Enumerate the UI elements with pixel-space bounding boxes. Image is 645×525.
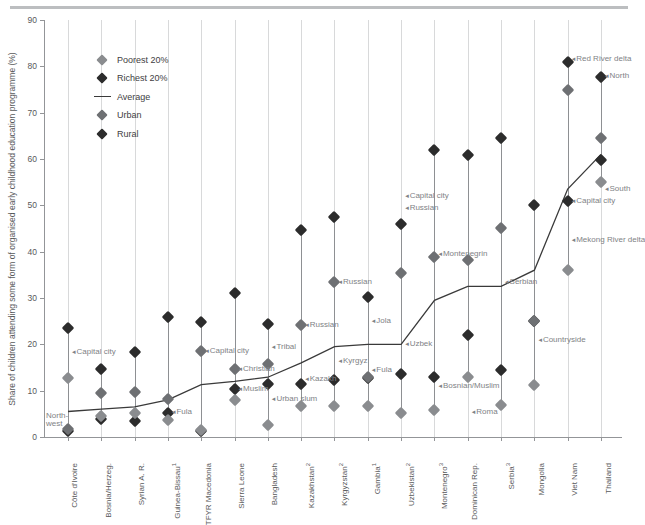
x-tick-label: Bangladesh (271, 463, 279, 505)
header-rule (10, 6, 628, 9)
x-tick-mark (268, 437, 269, 441)
x-tick-label: Dominican Rep. (471, 463, 479, 520)
x-tick-label: Montenegro3 (438, 463, 449, 509)
legend-label-rural: Rural (117, 129, 139, 139)
x-tick-label: Côte d'Ivoire (71, 463, 79, 508)
diamond-icon (92, 130, 112, 138)
annotation-label: Muslim (239, 385, 269, 393)
annotation-label: Russian (338, 278, 371, 286)
x-tick-mark (201, 437, 202, 441)
legend-item-urban: Urban (92, 108, 169, 123)
diamond-icon (92, 74, 112, 82)
x-tick-label: Gambia1 (371, 463, 382, 494)
y-axis-title: Share of children attending some form of… (6, 20, 18, 437)
annotation-label: Russian (405, 203, 438, 211)
annotation-label: North-west (46, 412, 68, 428)
annotation-label: Mekong River delta (572, 236, 645, 244)
legend-item-richest: Richest 20% (92, 71, 169, 86)
annotation-label: Montenegrin (438, 250, 487, 258)
annotation-label: North (605, 71, 629, 79)
y-tick-label: 0 (32, 433, 37, 442)
x-tick-label: TFYR Macedonia (205, 463, 213, 525)
annotation-label: Capital city (405, 192, 449, 200)
annotation-label: Countryside (538, 335, 585, 343)
annotation-label: Capital city (205, 347, 249, 355)
diamond-icon (92, 56, 112, 64)
x-tick-mark (568, 437, 569, 441)
x-tick-label: Serbia3 (505, 463, 516, 489)
annotation-label: Red River delta (572, 55, 632, 63)
y-tick-label: 60 (28, 155, 37, 164)
legend-label-average: Average (117, 92, 150, 102)
y-tick-label: 80 (28, 62, 37, 71)
legend-label-richest: Richest 20% (117, 73, 168, 83)
annotation-label: Capital city (572, 196, 616, 204)
y-tick-label: 20 (28, 340, 37, 349)
x-tick-label: Kyrgyzstan2 (338, 463, 349, 506)
annotation-label: Fula (172, 407, 192, 415)
x-tick-label: Uzbekistan2 (405, 463, 416, 506)
x-tick-label: Kazakhstan2 (305, 463, 316, 508)
annotation-label: Russian (305, 321, 338, 329)
legend-item-average: Average (92, 89, 169, 104)
annotation-label: Uzbek (405, 340, 432, 348)
x-tick-label: Thailand (605, 463, 613, 494)
x-tick-label: Mongolia (538, 463, 546, 495)
y-axis-title-text: Share of children attending some form of… (7, 52, 17, 405)
annotation-label: Fula (372, 366, 392, 374)
annotation-label: South (605, 185, 630, 193)
annotation-label: Jola (372, 317, 391, 325)
x-tick-mark (601, 437, 602, 441)
x-tick-label: Bosnia/Herzeg. (105, 463, 113, 518)
x-tick-mark (334, 437, 335, 441)
annotation-label: Tribal (272, 342, 296, 350)
x-tick-label: Syrian A. R. (138, 463, 146, 505)
y-tick-label: 70 (28, 108, 37, 117)
y-tick-label: 10 (28, 386, 37, 395)
x-tick-mark (68, 437, 69, 441)
y-tick-label: 90 (28, 16, 37, 25)
y-tick-mark (40, 437, 44, 438)
diamond-icon (92, 111, 112, 119)
y-tick-label: 50 (28, 201, 37, 210)
x-tick-mark (501, 437, 502, 441)
x-tick-label: Guinea-Bissau1 (171, 463, 182, 519)
legend-item-poorest: Poorest 20% (92, 52, 169, 67)
x-tick-mark (135, 437, 136, 441)
line-icon (92, 96, 112, 98)
annotation-label: Bosnian/Muslim (438, 382, 499, 390)
x-tick-mark (235, 437, 236, 441)
annotation-label: Christian (239, 365, 275, 373)
legend: Poorest 20% Richest 20% Average Urban Ru… (92, 52, 169, 145)
legend-label-urban: Urban (117, 110, 142, 120)
annotation-label: Urban slum (272, 394, 317, 402)
x-tick-mark (534, 437, 535, 441)
annotation-label: Kyrgyz (338, 356, 367, 364)
y-tick-label: 30 (28, 294, 37, 303)
annotation-label: Capital city (72, 348, 116, 356)
x-tick-mark (301, 437, 302, 441)
legend-label-poorest: Poorest 20% (117, 55, 169, 65)
x-tick-label: Sierra Leone (238, 463, 246, 509)
x-tick-label: Viet Nam (571, 463, 579, 496)
x-tick-mark (401, 437, 402, 441)
x-tick-mark (468, 437, 469, 441)
x-tick-mark (368, 437, 369, 441)
annotation-label: Roma (472, 407, 498, 415)
annotation-label: Serbian (505, 278, 537, 286)
x-tick-mark (434, 437, 435, 441)
y-tick-label: 40 (28, 247, 37, 256)
annotation-label: Kazakh (305, 375, 336, 383)
x-tick-mark (168, 437, 169, 441)
x-tick-mark (101, 437, 102, 441)
legend-item-rural: Rural (92, 126, 169, 141)
